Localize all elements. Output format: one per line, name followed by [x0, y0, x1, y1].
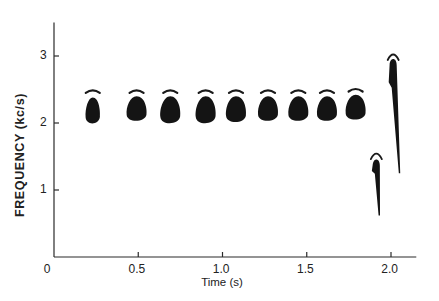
harmonic-arc — [349, 89, 363, 92]
note-blob — [346, 95, 366, 120]
spectrogram-chart — [0, 0, 439, 301]
spectrogram-marks — [86, 54, 401, 215]
x-tick-label: 0 — [44, 262, 51, 276]
x-tick-label: 1.5 — [297, 262, 314, 276]
x-tick-label: 0.5 — [129, 262, 146, 276]
note-blob — [288, 96, 308, 121]
x-tick-label: 1.0 — [213, 262, 230, 276]
downsweep — [389, 59, 401, 173]
y-tick-label: 3 — [40, 48, 47, 62]
note-blob — [196, 96, 216, 123]
harmonic-arc — [291, 90, 305, 93]
axes — [54, 23, 416, 258]
y-axis-label: FREQUENCY (kc/s) — [13, 93, 27, 217]
harmonic-arc — [261, 90, 275, 93]
note-blob — [86, 98, 101, 124]
y-tick-label: 2 — [40, 115, 47, 129]
harmonic-arc — [229, 90, 243, 93]
x-tick-label: 2.0 — [381, 262, 398, 276]
harmonic-arc — [163, 90, 177, 93]
harmonic-arc — [199, 90, 213, 93]
harmonic-arc — [371, 154, 382, 160]
harmonic-arc — [86, 90, 100, 93]
note-blob — [127, 96, 147, 121]
note-blob — [258, 96, 278, 121]
note-blob — [160, 96, 180, 123]
downsweep — [372, 160, 380, 216]
harmonic-arc — [320, 90, 334, 93]
note-blob — [226, 96, 246, 122]
y-tick-label: 1 — [40, 182, 47, 196]
x-axis-label: Time (s) — [201, 276, 243, 288]
note-blob — [317, 96, 337, 121]
harmonic-arc — [130, 90, 144, 93]
